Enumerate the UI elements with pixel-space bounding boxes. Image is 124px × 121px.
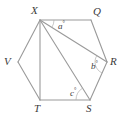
edge-QR bbox=[91, 20, 107, 62]
vertex-label-Q: Q bbox=[93, 6, 101, 17]
geometry-figure: XQRSTVa°b°c° bbox=[0, 0, 124, 121]
angle-b-label: b° bbox=[91, 60, 98, 71]
angle-a-arc bbox=[52, 20, 54, 27]
angle-c-degree-icon: ° bbox=[74, 87, 76, 93]
edge-TV bbox=[18, 62, 40, 100]
angle-c-label: c° bbox=[70, 87, 76, 98]
angle-b-degree-icon: ° bbox=[96, 60, 98, 66]
edge-VX bbox=[18, 20, 40, 62]
angle-c-arc bbox=[76, 88, 83, 100]
figure-canvas bbox=[0, 0, 124, 121]
vertex-label-X: X bbox=[31, 5, 38, 16]
vertex-label-S: S bbox=[86, 103, 92, 114]
angle-a-degree-icon: ° bbox=[63, 20, 65, 26]
vertex-label-R: R bbox=[110, 56, 117, 67]
vertex-label-T: T bbox=[34, 103, 40, 114]
vertex-label-V: V bbox=[4, 56, 11, 67]
angle-a-label: a° bbox=[58, 20, 65, 31]
